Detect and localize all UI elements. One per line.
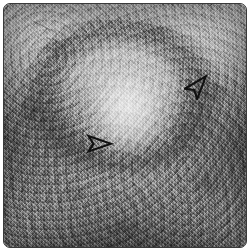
ultrasound-image-frame xyxy=(3,3,247,248)
figure-root xyxy=(0,0,250,251)
vignette-layer xyxy=(4,4,246,247)
